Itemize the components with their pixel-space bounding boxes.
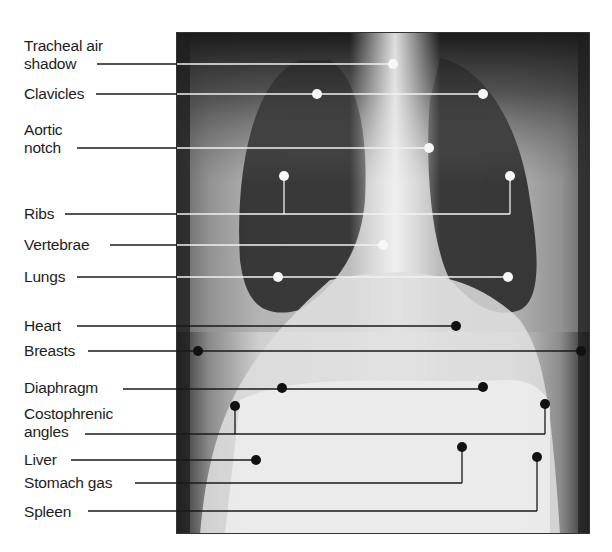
marker-dot-lungs [503, 272, 513, 282]
label-text: Aortic [24, 121, 62, 139]
chest-xray-diagram: Tracheal airshadowClaviclesAorticnotchRi… [0, 0, 612, 552]
marker-dot-diaphragm [277, 383, 287, 393]
label-text: notch [24, 139, 62, 157]
marker-dot-lungs [273, 272, 283, 282]
label-text: Clavicles [24, 85, 84, 103]
marker-dot-breasts [576, 346, 586, 356]
label-lungs: Lungs [24, 268, 65, 286]
marker-dot-costophrenic-angles [230, 401, 240, 411]
label-text: Stomach gas [24, 474, 112, 492]
label-heart: Heart [24, 317, 61, 335]
label-clavicles: Clavicles [24, 85, 84, 103]
label-liver: Liver [24, 451, 57, 469]
marker-dot-diaphragm [478, 382, 488, 392]
marker-dot-aortic-notch [424, 143, 434, 153]
marker-dot-ribs [279, 171, 289, 181]
label-spleen: Spleen [24, 503, 71, 521]
label-text: Ribs [24, 205, 54, 223]
marker-dot-costophrenic-angles [540, 399, 550, 409]
marker-dot-ribs [505, 171, 515, 181]
xray-image [0, 0, 612, 552]
label-text: Tracheal air [24, 37, 103, 55]
marker-dot-vertebrae [378, 240, 388, 250]
marker-dot-spleen [532, 452, 542, 462]
marker-dot-stomach-gas [457, 442, 467, 452]
marker-dot-heart [451, 321, 461, 331]
label-text: Vertebrae [24, 236, 89, 254]
label-text: Spleen [24, 503, 71, 521]
label-text: shadow [24, 55, 103, 73]
marker-dot-liver [251, 455, 261, 465]
marker-dot-tracheal-air-shadow [388, 59, 398, 69]
label-breasts: Breasts [24, 342, 75, 360]
marker-dot-clavicles [478, 89, 488, 99]
label-tracheal-air-shadow: Tracheal airshadow [24, 37, 103, 73]
marker-dot-clavicles [312, 89, 322, 99]
label-aortic-notch: Aorticnotch [24, 121, 62, 157]
label-text: Breasts [24, 342, 75, 360]
label-text: Liver [24, 451, 57, 469]
marker-dot-breasts [193, 346, 203, 356]
label-text: Diaphragm [24, 379, 98, 397]
label-diaphragm: Diaphragm [24, 379, 98, 397]
label-text: angles [24, 423, 113, 441]
label-costophrenic-angles: Costophrenicangles [24, 405, 113, 441]
label-ribs: Ribs [24, 205, 54, 223]
label-vertebrae: Vertebrae [24, 236, 89, 254]
label-text: Heart [24, 317, 61, 335]
label-text: Costophrenic [24, 405, 113, 423]
label-text: Lungs [24, 268, 65, 286]
label-stomach-gas: Stomach gas [24, 474, 112, 492]
